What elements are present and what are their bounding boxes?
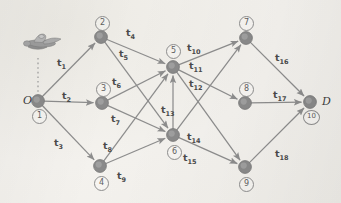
edge-label-t15: t15 xyxy=(183,152,197,166)
edge-label-t11: t11 xyxy=(189,60,203,74)
edge-label-t16: t16 xyxy=(275,52,289,66)
node-name-d: D xyxy=(322,95,331,108)
node-number-4: 4 xyxy=(94,176,109,191)
edge-5-8 xyxy=(178,69,238,99)
node-number-1: 1 xyxy=(32,109,47,124)
node-number-2: 2 xyxy=(95,16,110,31)
node-9[interactable] xyxy=(239,161,252,174)
edge-label-t14: t14 xyxy=(187,131,201,145)
edge-1-4 xyxy=(42,105,95,160)
node-number-3: 3 xyxy=(96,82,111,97)
node-number-6: 6 xyxy=(167,145,182,160)
node-name-o: O xyxy=(23,94,32,107)
node-number-8: 8 xyxy=(239,82,254,97)
edge-label-t7: t7 xyxy=(111,113,120,127)
edge-label-t6: t6 xyxy=(112,76,121,90)
node-2[interactable] xyxy=(95,31,108,44)
node-number-9: 9 xyxy=(239,177,254,192)
edge-label-t4: t4 xyxy=(126,27,135,41)
edge-label-t17: t17 xyxy=(273,89,287,103)
edge-label-t5: t5 xyxy=(119,48,128,62)
node-6[interactable] xyxy=(167,129,180,142)
node-number-10: 10 xyxy=(303,110,320,125)
node-10[interactable] xyxy=(304,96,317,109)
edge-label-t12: t12 xyxy=(189,78,203,92)
edge-label-t1: t1 xyxy=(57,57,66,71)
edge-label-t10: t10 xyxy=(187,42,201,56)
edge-label-t9: t9 xyxy=(117,170,126,184)
edge-label-t3: t3 xyxy=(54,137,63,151)
node-number-5: 5 xyxy=(166,44,181,59)
edge-label-t18: t18 xyxy=(275,148,289,162)
edge-label-t13: t13 xyxy=(161,104,175,118)
node-7[interactable] xyxy=(240,32,253,45)
node-1[interactable] xyxy=(32,95,45,108)
node-8[interactable] xyxy=(239,97,252,110)
edge-label-t8: t8 xyxy=(103,140,112,154)
edge-4-6 xyxy=(105,138,165,164)
node-4[interactable] xyxy=(94,160,107,173)
diagram-canvas: 12345678910 OD t1t2t3t4t5t6t7t8t9t10t11t… xyxy=(0,0,341,203)
airplane-icon xyxy=(17,30,65,58)
node-5[interactable] xyxy=(167,61,180,74)
node-3[interactable] xyxy=(96,97,109,110)
edge-2-5 xyxy=(106,39,165,64)
edge-6-7 xyxy=(176,45,241,131)
edge-label-t2: t2 xyxy=(62,90,71,104)
edge-7-10 xyxy=(250,42,304,96)
node-number-7: 7 xyxy=(239,16,254,31)
